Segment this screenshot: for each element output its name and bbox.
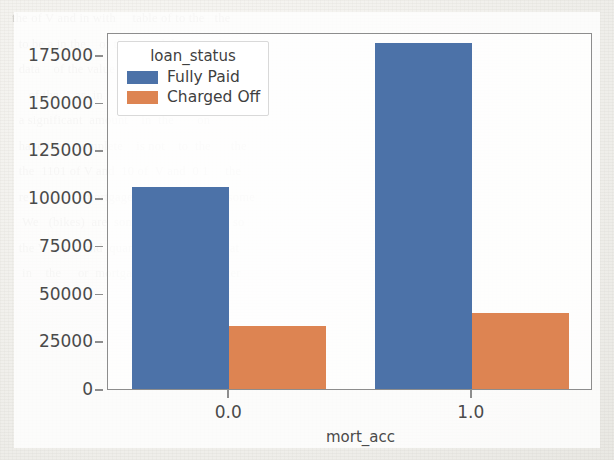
x-axis: mort_acc 0.01.0 — [0, 390, 614, 460]
y-tick-mark — [95, 246, 103, 248]
legend-item-charged-off[interactable]: Charged Off — [127, 88, 259, 106]
y-tick-label: 150000 — [28, 93, 93, 113]
bar — [229, 326, 326, 389]
y-tick-mark — [95, 103, 103, 105]
y-tick-mark — [95, 150, 103, 152]
x-tick-mark — [227, 390, 229, 398]
y-tick-label: 25000 — [39, 331, 93, 351]
y-tick-mark — [95, 341, 103, 343]
x-tick-mark — [470, 390, 472, 398]
x-tick-label: 0.0 — [215, 402, 242, 422]
y-tick-label: 175000 — [28, 45, 93, 65]
y-tick-mark — [95, 294, 103, 296]
y-tick-label: 50000 — [39, 284, 93, 304]
y-tick-mark — [95, 198, 103, 200]
y-tick-label: 75000 — [39, 236, 93, 256]
legend-item-label: Charged Off — [167, 88, 260, 106]
bar — [472, 313, 569, 389]
legend-title: loan_status — [127, 47, 259, 65]
legend-swatch-icon — [127, 91, 158, 104]
y-tick-mark — [95, 55, 103, 57]
legend-item-fully-paid[interactable]: Fully Paid — [127, 68, 259, 86]
y-tick-label: 125000 — [28, 140, 93, 160]
legend-swatch-icon — [127, 71, 158, 84]
x-tick-label: 1.0 — [457, 402, 484, 422]
bar-chart-figure: 0250005000075000100000125000150000175000… — [0, 0, 614, 460]
legend[interactable]: loan_status Fully Paid Charged Off — [117, 41, 269, 116]
x-axis-label: mort_acc — [0, 428, 614, 446]
legend-item-label: Fully Paid — [167, 68, 240, 86]
y-tick-label: 100000 — [28, 188, 93, 208]
bar — [132, 187, 229, 389]
bar — [375, 43, 472, 389]
